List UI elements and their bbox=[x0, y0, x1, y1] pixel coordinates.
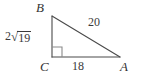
radical-radicand: 19 bbox=[17, 31, 31, 45]
vertex-label-c: C bbox=[40, 60, 49, 73]
right-triangle-figure: B C A 20 18 2 √ 19 bbox=[0, 0, 141, 80]
right-angle-marker-icon bbox=[52, 47, 62, 57]
side-label-left-leg: 2 √ 19 bbox=[5, 30, 31, 45]
side-label-hypotenuse: 20 bbox=[88, 16, 100, 28]
vertex-label-a: A bbox=[120, 60, 128, 73]
vertex-label-b: B bbox=[36, 1, 44, 14]
radical-expression: 2 √ 19 bbox=[5, 30, 31, 45]
side-label-base: 18 bbox=[72, 60, 84, 72]
